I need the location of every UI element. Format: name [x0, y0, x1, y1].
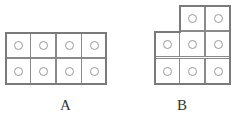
grid-cell [81, 58, 107, 84]
circle-icon [214, 14, 223, 23]
grid-cell [179, 31, 205, 57]
circle-icon [90, 41, 99, 50]
figure-a-grid [5, 32, 107, 85]
circle-icon [39, 67, 48, 76]
circle-icon [163, 67, 172, 76]
grid-cell [5, 58, 31, 84]
figure-a-label: A [60, 97, 71, 114]
circle-icon [188, 40, 197, 49]
circle-icon [65, 41, 74, 50]
grid-cell [205, 5, 231, 31]
grid-cell [179, 5, 205, 31]
grid-cell [154, 31, 180, 57]
grid-cell [154, 58, 180, 84]
circle-icon [188, 14, 197, 23]
circle-icon [39, 41, 48, 50]
grid-cell [205, 31, 231, 57]
circle-icon [90, 67, 99, 76]
circle-icon [65, 67, 74, 76]
figure-b-outline-step [154, 31, 181, 33]
grid-cell [81, 32, 107, 58]
grid-cell [30, 58, 56, 84]
grid-cell [205, 58, 231, 84]
circle-icon [188, 67, 197, 76]
circle-icon [214, 40, 223, 49]
circle-icon [14, 67, 23, 76]
figure-b-label: B [177, 97, 187, 114]
grid-cell [30, 32, 56, 58]
grid-cell [56, 58, 82, 84]
grid-cell [56, 32, 82, 58]
grid-cell [5, 32, 31, 58]
circle-icon [214, 67, 223, 76]
circle-icon [14, 41, 23, 50]
grid-cell [179, 58, 205, 84]
figure-b-grid [154, 5, 231, 85]
circle-icon [163, 40, 172, 49]
